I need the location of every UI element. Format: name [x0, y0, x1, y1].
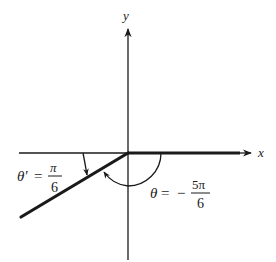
reference-angle-arc-icon: [83, 153, 87, 175]
angle-label: θ = − 5π 6: [150, 177, 210, 211]
svg-text:6: 6: [51, 180, 58, 195]
terminal-side: [21, 153, 128, 217]
angle-diagram: y x θ′ = π 6 θ = − 5π 6: [0, 0, 276, 262]
svg-text:θ: θ: [150, 185, 158, 201]
svg-text:−: −: [177, 185, 185, 201]
svg-text:π: π: [50, 160, 57, 175]
svg-text:θ′: θ′: [17, 168, 28, 184]
angle-arc-icon: [104, 153, 161, 186]
svg-text:=: =: [34, 168, 42, 184]
x-axis-label: x: [257, 145, 264, 160]
svg-text:5π: 5π: [192, 177, 206, 192]
svg-text:=: =: [161, 185, 169, 201]
svg-text:6: 6: [197, 196, 204, 211]
y-axis-label: y: [121, 8, 129, 23]
reference-angle-label: θ′ = π 6: [17, 160, 62, 195]
